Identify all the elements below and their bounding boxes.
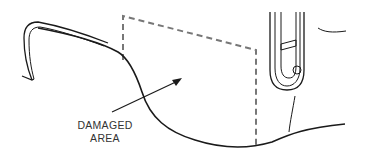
damaged-area-label-line2: AREA <box>70 132 140 145</box>
damaged-area-outline <box>123 16 256 147</box>
damaged-area-label-line1: DAMAGED <box>70 119 140 132</box>
molding-strip-tip <box>22 76 34 80</box>
callout-arrowhead <box>172 78 182 86</box>
tail-lamp-assembly <box>270 12 346 132</box>
diagram-canvas: DAMAGED AREA <box>0 0 366 168</box>
molding-strip-end <box>24 22 108 80</box>
callout-arrow-line <box>112 80 180 112</box>
diagram-drawing <box>0 0 366 168</box>
damaged-area-label: DAMAGED AREA <box>70 119 140 145</box>
